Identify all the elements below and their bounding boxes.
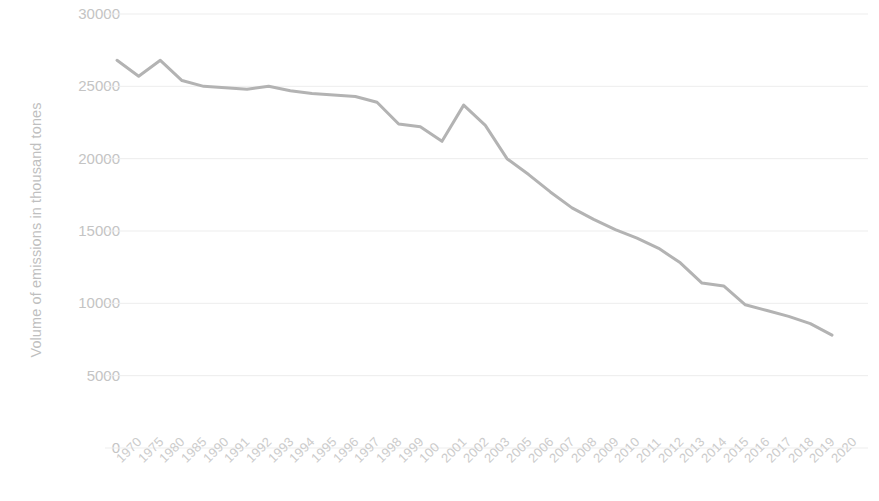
x-axis-tick-labels: 1970197519801985199019911992199319941995… [0, 0, 879, 501]
emissions-line-chart: Volume of emissions in thousand tones 05… [0, 0, 879, 501]
